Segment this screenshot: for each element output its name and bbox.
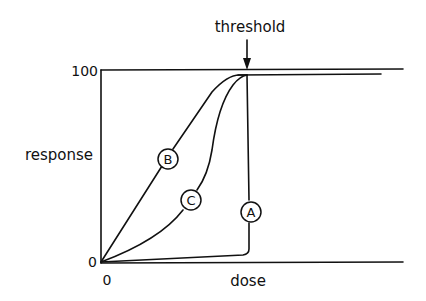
- curve-a: [101, 75, 249, 262]
- curve-b: [101, 75, 247, 262]
- curve-a-label: A: [247, 205, 256, 220]
- dose-response-diagram: A B C threshold response dose 100 0 0: [0, 0, 426, 301]
- x-origin-tick: 0: [103, 272, 112, 288]
- curve-c: [101, 75, 247, 262]
- y-top-tick: 100: [71, 63, 98, 79]
- threshold-arrow-head: [243, 58, 251, 70]
- max-response-line: [101, 69, 403, 70]
- curve-b-label: B: [164, 152, 173, 167]
- plateau-line: [238, 74, 381, 75]
- x-axis: [101, 262, 403, 263]
- y-origin-tick: 0: [88, 254, 97, 270]
- y-axis-label: response: [25, 146, 93, 164]
- threshold-label: threshold: [215, 18, 286, 36]
- curve-c-label: C: [186, 193, 195, 208]
- x-axis-label: dose: [230, 272, 266, 290]
